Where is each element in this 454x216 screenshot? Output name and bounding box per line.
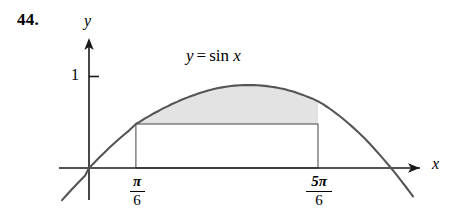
equation-y: y xyxy=(186,46,194,65)
equation-x: x xyxy=(233,46,241,65)
y-axis-label: y xyxy=(84,12,91,30)
curve-equation-label: y=sin x xyxy=(186,46,241,66)
figure-container: 44. y x 1 y=sin x π 6 5π 6 xyxy=(0,0,454,216)
inscribed-rectangle xyxy=(136,124,318,168)
x-axis-label: x xyxy=(432,155,439,173)
fraction-numerator: 5π xyxy=(301,174,337,191)
equation-sin: sin xyxy=(209,46,229,65)
sine-curve-figure xyxy=(0,0,454,216)
equation-equals: = xyxy=(194,46,210,65)
fraction-denominator: 6 xyxy=(301,192,337,209)
x-tick-label-pi-over-6: π 6 xyxy=(124,174,150,209)
y-tick-label-one: 1 xyxy=(71,66,79,84)
fraction-numerator: π xyxy=(124,174,150,191)
x-tick-label-five-pi-over-6: 5π 6 xyxy=(301,174,337,209)
fraction-denominator: 6 xyxy=(124,192,150,209)
